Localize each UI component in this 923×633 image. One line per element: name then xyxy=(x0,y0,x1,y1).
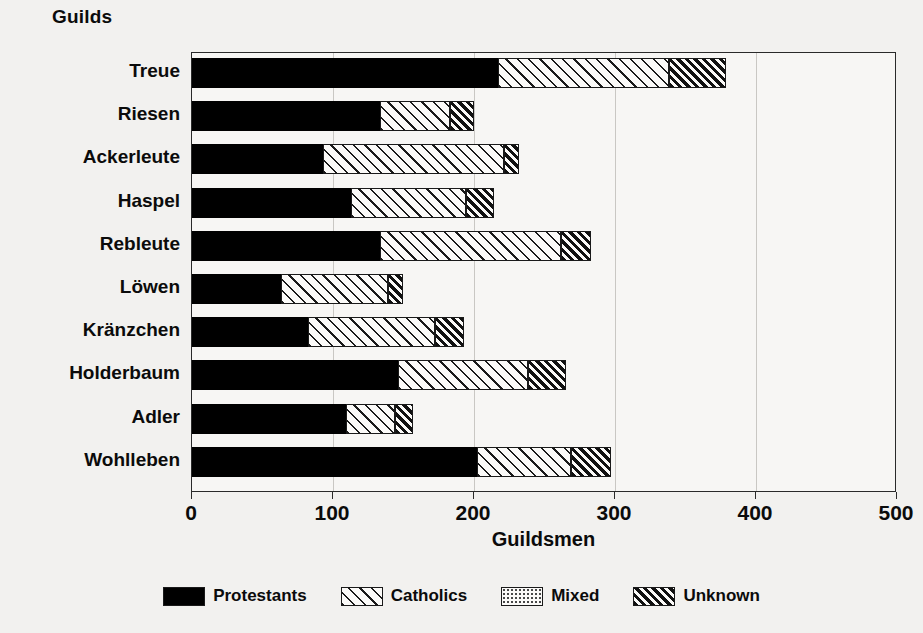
bar-segment-catholics xyxy=(380,101,451,131)
category-label-list: TreueRiesenAckerleuteHaspelRebleuteLöwen… xyxy=(0,52,180,492)
x-tick xyxy=(332,492,333,499)
bar-segment-protestants xyxy=(192,404,346,434)
bar-segment-protestants xyxy=(192,447,477,477)
bar-segment-unknown xyxy=(395,404,413,434)
x-tick-label: 100 xyxy=(314,501,349,525)
x-tick xyxy=(896,492,897,499)
legend-swatch-catholics-icon xyxy=(341,587,383,606)
category-label: Adler xyxy=(5,406,180,428)
category-label: Ackerleute xyxy=(5,146,180,168)
x-tick-label: 300 xyxy=(596,501,631,525)
bar-segment-unknown xyxy=(435,317,465,347)
legend-swatch-protestants-icon xyxy=(163,587,205,606)
x-tick xyxy=(191,492,192,499)
category-label: Holderbaum xyxy=(5,362,180,384)
x-tick xyxy=(755,492,756,499)
bar-segment-protestants xyxy=(192,317,308,347)
category-label: Löwen xyxy=(5,276,180,298)
bar-segment-catholics xyxy=(380,231,562,261)
bar-segment-protestants xyxy=(192,360,398,390)
y-axis-title: Guilds xyxy=(52,6,112,28)
legend-item-mixed[interactable]: Mixed xyxy=(501,586,599,606)
legend-label: Protestants xyxy=(213,586,307,606)
x-tick-label: 0 xyxy=(185,501,197,525)
bar-segment-protestants xyxy=(192,231,380,261)
x-axis: 0100200300400500 xyxy=(191,492,896,532)
legend-item-unknown[interactable]: Unknown xyxy=(633,586,760,606)
bar-row xyxy=(192,317,897,347)
bar-row xyxy=(192,101,897,131)
legend-label: Unknown xyxy=(683,586,760,606)
category-label: Kränzchen xyxy=(5,319,180,341)
legend-swatch-mixed-icon xyxy=(501,587,543,606)
bar-row xyxy=(192,231,897,261)
category-label: Wohlleben xyxy=(5,449,180,471)
bar-segment-protestants xyxy=(192,274,281,304)
bar-row xyxy=(192,144,897,174)
bar-segment-unknown xyxy=(561,231,591,261)
bar-row xyxy=(192,404,897,434)
x-tick-label: 500 xyxy=(878,501,913,525)
plot-area xyxy=(191,52,896,492)
bar-segment-protestants xyxy=(192,58,498,88)
category-label: Haspel xyxy=(5,190,180,212)
bar-segment-unknown xyxy=(504,144,520,174)
chart-legend: ProtestantsCatholicsMixedUnknown xyxy=(0,586,923,606)
bar-segment-catholics xyxy=(308,317,435,347)
bar-segment-catholics xyxy=(477,447,571,477)
bar-row xyxy=(192,447,897,477)
bar-row xyxy=(192,360,897,390)
bar-segment-unknown xyxy=(450,101,474,131)
x-tick xyxy=(473,492,474,499)
chart-canvas: Guilds TreueRiesenAckerleuteHaspelRebleu… xyxy=(0,0,923,633)
x-tick-label: 200 xyxy=(455,501,490,525)
bar-segment-unknown xyxy=(571,447,610,477)
bar-segment-unknown xyxy=(466,188,494,218)
bar-segment-unknown xyxy=(528,360,566,390)
bar-segment-catholics xyxy=(351,188,465,218)
bar-row xyxy=(192,188,897,218)
category-label: Riesen xyxy=(5,103,180,125)
bar-segment-catholics xyxy=(398,360,528,390)
legend-label: Catholics xyxy=(391,586,468,606)
legend-item-catholics[interactable]: Catholics xyxy=(341,586,468,606)
bar-segment-unknown xyxy=(388,274,404,304)
bar-segment-protestants xyxy=(192,101,380,131)
category-label: Treue xyxy=(5,60,180,82)
bar-segment-catholics xyxy=(281,274,388,304)
bar-segment-catholics xyxy=(323,144,503,174)
legend-item-protestants[interactable]: Protestants xyxy=(163,586,307,606)
x-axis-title: Guildsmen xyxy=(191,528,896,551)
bar-segment-catholics xyxy=(346,404,395,434)
bar-row xyxy=(192,274,897,304)
bar-row xyxy=(192,58,897,88)
bar-segment-protestants xyxy=(192,144,323,174)
legend-label: Mixed xyxy=(551,586,599,606)
legend-swatch-unknown-icon xyxy=(633,587,675,606)
x-tick-label: 400 xyxy=(737,501,772,525)
bar-segment-unknown xyxy=(669,58,727,88)
category-label: Rebleute xyxy=(5,233,180,255)
x-tick xyxy=(614,492,615,499)
bar-segment-catholics xyxy=(498,58,669,88)
bar-segment-protestants xyxy=(192,188,351,218)
